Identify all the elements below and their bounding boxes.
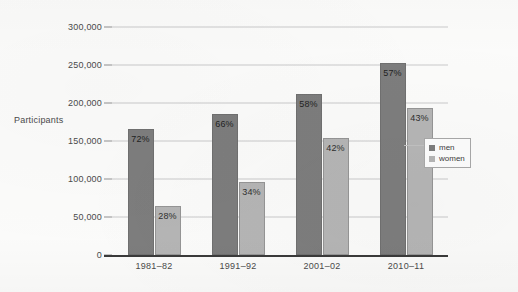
bar-value-label: 34% (240, 187, 264, 197)
x-axis-tick-label: 2001–02 (280, 261, 364, 271)
y-axis-tick-label: 150,000 (46, 136, 102, 146)
chart-legend: menwomen (424, 138, 471, 168)
y-axis-tick-label: 50,000 (46, 212, 102, 222)
y-axis-tickmark (104, 27, 112, 28)
x-axis-tick-label: 1991–92 (196, 261, 280, 271)
bar-value-label: 28% (156, 211, 180, 221)
x-axis-line (104, 255, 448, 257)
x-axis-tick-label: 2010–11 (364, 261, 448, 271)
y-axis-tickmark (104, 65, 112, 66)
bar-men[interactable]: 72% (128, 129, 154, 255)
bar-men[interactable]: 57% (380, 63, 406, 255)
y-axis-tickmark (104, 103, 112, 104)
bar-value-label: 42% (324, 143, 348, 153)
y-axis-tick-label: 100,000 (46, 174, 102, 184)
y-axis-tickmark (104, 179, 112, 180)
bar-value-label: 72% (129, 134, 153, 144)
legend-item-men[interactable]: men (429, 142, 465, 153)
legend-swatch-icon (429, 145, 435, 151)
bar-value-label: 43% (408, 113, 432, 123)
plot-area: 72%28%66%34%58%42%57%43% (112, 27, 448, 255)
legend-item-label: men (439, 142, 455, 153)
bar-women[interactable]: 34% (239, 182, 265, 255)
bar-women[interactable]: 28% (155, 206, 181, 255)
y-axis-tick-label: 300,000 (46, 22, 102, 32)
bar-value-label: 66% (213, 119, 237, 129)
bar-value-label: 57% (381, 68, 405, 78)
bar-men[interactable]: 58% (296, 94, 322, 255)
x-axis-tick-label: 1981–82 (112, 261, 196, 271)
bar-group: 58%42% (296, 27, 349, 255)
bar-women[interactable]: 42% (323, 138, 349, 255)
bar-value-label: 58% (297, 99, 321, 109)
y-axis-tick-label: 0 (46, 250, 102, 260)
legend-leader-line (404, 145, 426, 146)
y-axis-tickmark (104, 217, 112, 218)
bar-group: 66%34% (212, 27, 265, 255)
y-axis-tick-label: 200,000 (46, 98, 102, 108)
bar-women[interactable]: 43% (407, 108, 433, 255)
y-axis-title: Participants (14, 115, 63, 125)
legend-item-label: women (439, 153, 465, 164)
legend-swatch-icon (429, 156, 435, 162)
y-axis-tick-label: 250,000 (46, 60, 102, 70)
legend-item-women[interactable]: women (429, 153, 465, 164)
chart-figure: Participants 050,000100,000150,000200,00… (0, 0, 518, 292)
y-axis-tickmark (104, 141, 112, 142)
bar-men[interactable]: 66% (212, 114, 238, 255)
bar-group: 72%28% (128, 27, 181, 255)
